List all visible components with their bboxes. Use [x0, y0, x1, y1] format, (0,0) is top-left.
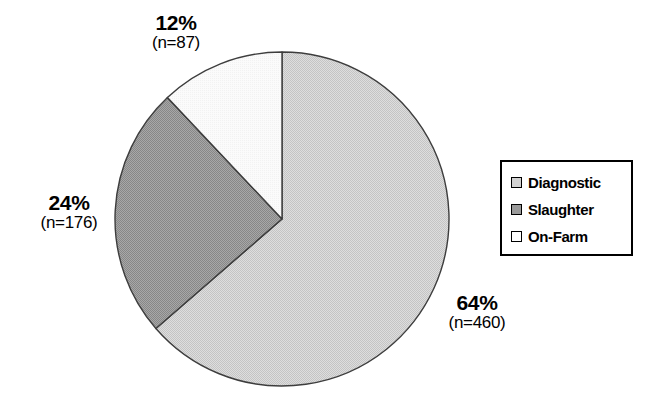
slice-label-slaughter-count: (n=176): [10, 214, 128, 232]
legend-label-on-farm: On-Farm: [528, 229, 588, 244]
legend-item-slaughter[interactable]: Slaughter: [511, 196, 631, 223]
legend-item-diagnostic[interactable]: Diagnostic: [511, 169, 631, 196]
slice-label-on-farm: 12% (n=87): [128, 12, 224, 52]
slice-label-slaughter: 24% (n=176): [10, 192, 128, 232]
legend-swatch-slaughter: [511, 204, 522, 215]
legend-item-on-farm[interactable]: On-Farm: [511, 223, 631, 250]
legend-swatch-on-farm: [511, 231, 522, 242]
slice-label-on-farm-percent: 12%: [128, 12, 224, 35]
slice-label-diagnostic-percent: 64%: [418, 292, 536, 315]
legend-swatch-diagnostic: [511, 177, 522, 188]
chart-legend: Diagnostic Slaughter On-Farm: [500, 160, 633, 256]
slice-label-diagnostic-count: (n=460): [418, 314, 536, 332]
pie-chart-figure: 12% (n=87) 24% (n=176) 64% (n=460) Diagn…: [0, 0, 660, 409]
slice-label-diagnostic: 64% (n=460): [418, 292, 536, 332]
slice-label-on-farm-count: (n=87): [128, 34, 224, 52]
slice-label-slaughter-percent: 24%: [10, 192, 128, 215]
legend-label-diagnostic: Diagnostic: [528, 175, 601, 190]
legend-label-slaughter: Slaughter: [528, 202, 594, 217]
